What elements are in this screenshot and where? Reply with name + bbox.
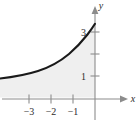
y-tick-label-3: 3 [81,27,86,38]
y-axis-arrow-icon [92,6,99,14]
x-tick-label-minus2: −2 [46,106,57,117]
exponential-area-figure: −3 −2 −1 1 3 x y [0,0,139,132]
x-tick-label-minus3: −3 [24,106,35,117]
x-tick-label-minus1: −1 [68,106,79,117]
x-axis-label: x [130,93,136,104]
y-axis-label: y [98,0,104,11]
y-tick-label-1: 1 [81,71,86,82]
plot-canvas: −3 −2 −1 1 3 x y [0,0,139,132]
x-axis-arrow-icon [120,96,128,103]
